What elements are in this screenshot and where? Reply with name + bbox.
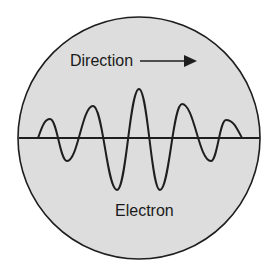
electron-wave-diagram: Direction Electron [0,0,275,275]
electron-label: Electron [115,202,174,219]
direction-label: Direction [70,52,133,69]
